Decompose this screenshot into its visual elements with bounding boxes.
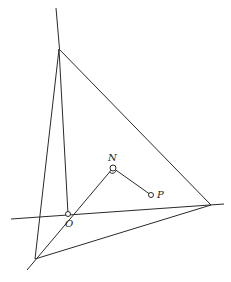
geometry-diagram: N P O [0,0,231,282]
segment-a-o [59,49,68,214]
horizontal-line [11,204,224,219]
label-n: N [107,152,118,163]
vertical-line [56,8,60,49]
point-o [66,212,71,217]
label-p: P [156,189,164,200]
segment-a-b [59,49,211,205]
point-n [110,165,116,171]
segment-n-p [113,168,151,195]
point-p [149,193,154,198]
segment-b-c [35,205,211,259]
segment-a-c [35,49,59,259]
label-o: O [65,218,73,229]
